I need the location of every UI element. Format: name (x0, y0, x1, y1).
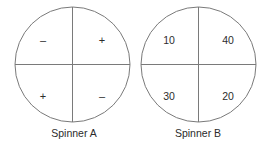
spinner-b-sector-bottom-left: 30 (149, 90, 189, 102)
spinner-b-sector-top-right: 40 (208, 34, 248, 46)
spinner-a-sector-bottom-left: + (23, 90, 63, 102)
spinner-a: – + + – (14, 6, 131, 123)
spinner-b-dial (140, 6, 257, 123)
spinner-a-sector-top-left: – (23, 34, 63, 46)
spinner-b-sector-bottom-right: 20 (208, 90, 248, 102)
spinner-a-sector-top-right: + (82, 34, 122, 46)
spinner-b-sector-top-left: 10 (149, 34, 189, 46)
spinner-a-dial (14, 6, 131, 123)
spinners-figure: – + + – 10 40 30 20 Spinner A Spinner B (0, 0, 264, 151)
spinner-a-sector-bottom-right: – (82, 90, 122, 102)
spinner-a-caption: Spinner A (4, 127, 144, 140)
spinner-b-caption: Spinner B (128, 127, 264, 140)
spinner-b: 10 40 30 20 (140, 6, 257, 123)
